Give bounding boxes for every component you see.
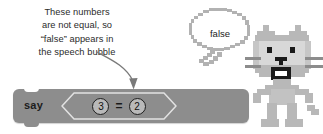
caption-line-3: “false” appears in <box>16 33 138 46</box>
left-operand-input[interactable]: 3 <box>92 98 109 115</box>
equals-sign-label: = <box>115 100 122 112</box>
say-block-label: say <box>24 99 43 111</box>
block-bottom-tab <box>24 123 39 127</box>
speech-bubble-text: false <box>200 28 240 39</box>
speech-bubble-outline-icon <box>181 6 255 72</box>
caption-line-2: are not equal, so <box>16 19 138 32</box>
caption-line-1: These numbers <box>16 6 138 19</box>
scratch-cat-sprite[interactable] <box>245 21 323 134</box>
equals-operator-block[interactable]: 3 = 2 <box>61 92 177 120</box>
tutorial-illustration: These numbers are not equal, so “false” … <box>0 0 323 134</box>
say-block[interactable]: say 3 = 2 <box>13 89 249 123</box>
block-top-notch <box>24 88 39 92</box>
right-operand-input[interactable]: 2 <box>129 98 146 115</box>
speech-bubble: false <box>181 6 255 72</box>
operator-contents: 3 = 2 <box>61 92 177 120</box>
cat-icon <box>245 21 323 134</box>
